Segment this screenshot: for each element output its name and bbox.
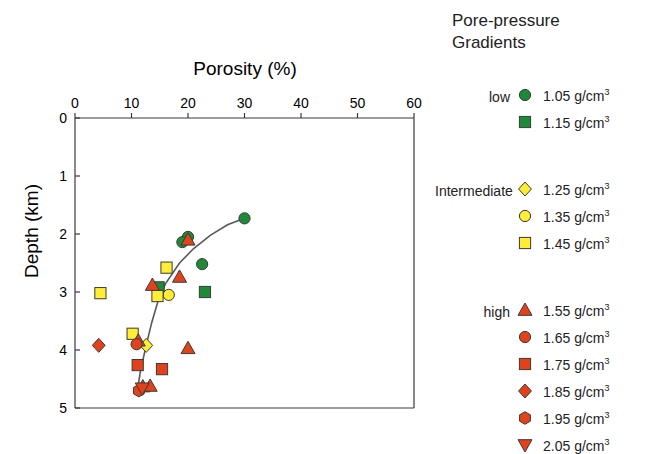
legend-group-label-intermediate: Intermediate xyxy=(435,183,510,199)
data-point-triangle xyxy=(181,341,195,353)
legend-marker-square xyxy=(514,355,536,373)
legend-marker-square xyxy=(514,113,536,131)
x-tick-label: 50 xyxy=(350,95,366,111)
x-tick-label: 0 xyxy=(71,95,79,111)
y-tick-label: 0 xyxy=(59,110,67,126)
y-tick-label: 5 xyxy=(59,400,67,416)
legend-item-1.05[interactable]: 1.05 g/cm3 xyxy=(514,86,610,104)
data-point-circle xyxy=(197,259,208,270)
series-1-85-g-cm3 xyxy=(92,338,105,352)
x-tick-label: 10 xyxy=(124,95,140,111)
legend-marker-diamond xyxy=(514,180,536,198)
data-point-square xyxy=(519,116,530,127)
legend-item-1.95[interactable]: 1.95 g/cm3 xyxy=(514,409,610,427)
data-point-square xyxy=(199,286,210,297)
data-point-diamond xyxy=(519,384,532,398)
data-point-diamond xyxy=(92,338,105,352)
legend-item-1.75[interactable]: 1.75 g/cm3 xyxy=(514,355,610,373)
legend-item-1.65[interactable]: 1.65 g/cm3 xyxy=(514,328,610,346)
data-point-circle xyxy=(163,289,174,300)
y-tick-label: 1 xyxy=(59,168,67,184)
legend-item-1.85[interactable]: 1.85 g/cm3 xyxy=(514,382,610,400)
data-point-circle xyxy=(239,213,250,224)
legend-marker-diamond xyxy=(514,382,536,400)
legend-item-label: 1.55 g/cm3 xyxy=(543,302,610,319)
series-1-45-g-cm3 xyxy=(95,262,172,339)
data-point-circle xyxy=(519,210,530,221)
legend-item-label: 1.35 g/cm3 xyxy=(543,208,610,225)
legend-item-label: 1.45 g/cm3 xyxy=(543,235,610,252)
legend-group-label-low: low xyxy=(435,89,510,105)
x-tick-label: 60 xyxy=(406,95,422,111)
series-1-75-g-cm3 xyxy=(132,359,167,374)
x-tick-label: 40 xyxy=(293,95,309,111)
chart-legend: Pore-pressure Gradients low1.05 g/cm31.1… xyxy=(430,0,653,441)
series-1-35-g-cm3 xyxy=(163,289,174,300)
legend-item-label: 1.95 g/cm3 xyxy=(543,410,610,427)
legend-item-1.25[interactable]: 1.25 g/cm3 xyxy=(514,180,610,198)
plot-area: Porosity (%) Depth (km) 0102030405060012… xyxy=(0,0,430,441)
legend-item-label: 1.25 g/cm3 xyxy=(543,181,610,198)
data-point-square xyxy=(95,288,106,299)
legend-item-label: 1.85 g/cm3 xyxy=(543,383,610,400)
data-point-square xyxy=(156,364,167,375)
data-point-circle xyxy=(519,89,530,100)
legend-item-label: 1.75 g/cm3 xyxy=(543,356,610,373)
x-tick-label: 30 xyxy=(237,95,253,111)
data-point-triangle-down xyxy=(518,440,532,452)
data-point-triangle xyxy=(518,303,532,315)
series-1-65-g-cm3 xyxy=(131,339,142,350)
data-point-circle xyxy=(519,331,530,342)
scatter-plot-svg: 0102030405060012345 xyxy=(0,0,430,441)
legend-item-label: 1.05 g/cm3 xyxy=(543,87,610,104)
data-point-square xyxy=(152,290,163,301)
y-tick-label: 2 xyxy=(59,226,67,242)
legend-item-1.15[interactable]: 1.15 g/cm3 xyxy=(514,113,610,131)
legend-item-1.45[interactable]: 1.45 g/cm3 xyxy=(514,234,610,252)
legend-item-2.05[interactable]: 2.05 g/cm3 xyxy=(514,436,610,454)
legend-group-label-high: high xyxy=(435,304,510,320)
legend-title-line1: Pore-pressure xyxy=(452,11,560,30)
legend-marker-square xyxy=(514,234,536,252)
legend-marker-triangle xyxy=(514,301,536,319)
y-tick-label: 4 xyxy=(59,342,67,358)
data-point-triangle xyxy=(173,270,187,282)
y-tick-label: 3 xyxy=(59,284,67,300)
legend-item-label: 2.05 g/cm3 xyxy=(543,437,610,454)
data-point-hexagon xyxy=(520,412,531,425)
legend-item-label: 1.15 g/cm3 xyxy=(543,114,610,131)
legend-item-1.55[interactable]: 1.55 g/cm3 xyxy=(514,301,610,319)
legend-marker-hexagon xyxy=(514,409,536,427)
data-point-square xyxy=(161,262,172,273)
x-tick-label: 20 xyxy=(180,95,196,111)
legend-item-1.35[interactable]: 1.35 g/cm3 xyxy=(514,207,610,225)
data-point-circle xyxy=(131,339,142,350)
legend-item-label: 1.65 g/cm3 xyxy=(543,329,610,346)
legend-marker-triangle-down xyxy=(514,436,536,454)
data-point-diamond xyxy=(519,182,532,196)
data-point-square xyxy=(519,358,530,369)
data-point-square xyxy=(132,359,143,370)
legend-marker-circle xyxy=(514,328,536,346)
legend-marker-circle xyxy=(514,207,536,225)
legend-title-line2: Gradients xyxy=(452,33,526,52)
legend-marker-circle xyxy=(514,86,536,104)
legend-title: Pore-pressure Gradients xyxy=(452,10,652,54)
data-point-square xyxy=(519,237,530,248)
